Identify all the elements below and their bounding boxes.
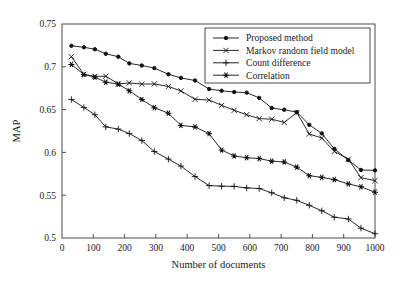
- marker-asterisk: [269, 159, 275, 164]
- marker-asterisk: [192, 124, 198, 129]
- marker-cross: [282, 120, 287, 125]
- marker-dot: [283, 108, 286, 111]
- marker-cross: [232, 108, 237, 113]
- marker-cross: [244, 112, 249, 117]
- line-chart: 01002003004005006007008009001000Number o…: [0, 0, 409, 283]
- y-tick-label: 0.75: [39, 19, 56, 29]
- marker-asterisk: [331, 177, 337, 182]
- marker-asterisk: [319, 175, 325, 180]
- marker-dot: [128, 62, 131, 65]
- marker-plus: [243, 185, 249, 191]
- marker-dot: [179, 76, 182, 79]
- marker-dot: [232, 90, 235, 93]
- marker-plus: [81, 104, 87, 110]
- marker-plus: [68, 96, 74, 102]
- marker-dot: [193, 79, 196, 82]
- marker-dot: [270, 106, 273, 109]
- marker-dot: [373, 169, 376, 172]
- marker-plus: [331, 214, 337, 220]
- y-axis-title: MAP: [11, 119, 22, 142]
- marker-asterisk: [219, 147, 225, 152]
- marker-plus: [345, 216, 351, 222]
- marker-asterisk: [256, 156, 262, 161]
- marker-cross: [219, 103, 224, 108]
- legend-item-label: Correlation: [246, 70, 290, 81]
- marker-plus: [294, 197, 300, 203]
- marker-dot: [104, 52, 107, 55]
- marker-asterisk: [345, 181, 351, 186]
- x-tick-label: 500: [211, 243, 226, 253]
- marker-plus: [256, 185, 262, 191]
- x-tick-label: 100: [86, 243, 101, 253]
- marker-asterisk: [206, 131, 212, 136]
- y-tick-label: 0.5: [44, 233, 56, 243]
- y-tick-label: 0.7: [44, 62, 56, 72]
- marker-plus: [115, 126, 121, 132]
- marker-dot: [167, 73, 170, 76]
- marker-plus: [165, 156, 171, 162]
- x-tick-label: 900: [337, 243, 352, 253]
- marker-asterisk: [281, 159, 287, 164]
- marker-plus: [231, 183, 237, 189]
- marker-dot: [70, 44, 73, 47]
- marker-dot: [308, 123, 311, 126]
- marker-dot: [153, 66, 156, 69]
- marker-dot: [207, 87, 210, 90]
- chart-figure: 01002003004005006007008009001000Number o…: [0, 0, 409, 283]
- x-axis-title: Number of documents: [172, 259, 266, 270]
- y-axis: 0.50.550.60.650.70.75MAP: [11, 19, 66, 243]
- marker-cross: [69, 54, 74, 59]
- y-tick-label: 0.6: [44, 148, 56, 158]
- marker-plus: [218, 183, 224, 189]
- marker-plus: [319, 208, 325, 214]
- y-tick-label: 0.65: [39, 105, 56, 115]
- marker-plus: [358, 225, 364, 231]
- x-axis: 01002003004005006007008009001000Number o…: [60, 234, 385, 270]
- marker-dot: [140, 64, 143, 67]
- marker-dot: [117, 55, 120, 58]
- legend-item-label: Markov random field model: [246, 45, 355, 56]
- marker-asterisk: [244, 155, 250, 160]
- x-tick-label: 700: [274, 243, 289, 253]
- series-3: [68, 96, 378, 237]
- marker-dot: [320, 132, 323, 135]
- marker-plus: [372, 231, 378, 237]
- marker-cross: [307, 131, 312, 136]
- x-tick-label: 600: [243, 243, 258, 253]
- marker-cross: [319, 135, 324, 140]
- marker-plus: [178, 163, 184, 169]
- x-tick-label: 200: [117, 243, 132, 253]
- y-tick-label: 0.55: [39, 191, 56, 201]
- marker-asterisk: [358, 184, 364, 189]
- marker-dot: [82, 46, 85, 49]
- x-tick-label: 1000: [366, 243, 385, 253]
- marker-dot: [257, 96, 260, 99]
- marker-asterisk: [103, 80, 109, 85]
- x-tick-label: 800: [305, 243, 320, 253]
- marker-plus: [269, 190, 275, 196]
- x-tick-label: 300: [149, 243, 164, 253]
- marker-asterisk: [231, 153, 237, 158]
- series-line: [71, 99, 375, 233]
- marker-dot: [93, 48, 96, 51]
- marker-plus: [206, 182, 212, 188]
- marker-dot: [245, 91, 248, 94]
- legend-item-label: Count difference: [246, 57, 311, 68]
- marker-dot: [224, 36, 227, 39]
- marker-cross: [178, 88, 183, 93]
- x-tick-label: 0: [60, 243, 65, 253]
- marker-plus: [126, 130, 132, 136]
- x-tick-label: 400: [180, 243, 195, 253]
- marker-plus: [192, 173, 198, 179]
- marker-dot: [359, 168, 362, 171]
- chart-legend: Proposed methodMarkov random field model…: [205, 28, 370, 83]
- marker-plus: [306, 202, 312, 208]
- marker-dot: [220, 89, 223, 92]
- marker-plus: [281, 195, 287, 201]
- legend-item-label: Proposed method: [246, 32, 313, 43]
